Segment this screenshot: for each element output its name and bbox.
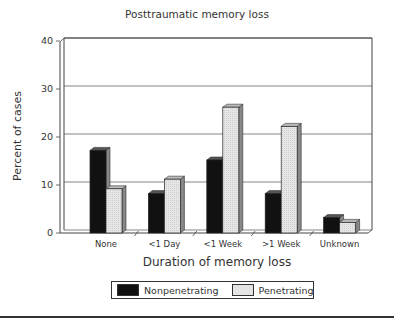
legend-item-nonpenetrating: Nonpenetrating bbox=[112, 284, 219, 296]
x-tick-label: <1 Day bbox=[148, 239, 180, 249]
bar-nonpenetrating-1 bbox=[148, 194, 164, 233]
bar-side bbox=[297, 123, 301, 233]
bar-top bbox=[106, 186, 126, 189]
x-tick-label: >1 Week bbox=[262, 239, 301, 249]
bar-penetrating-2 bbox=[223, 107, 239, 233]
bar-side bbox=[239, 104, 243, 233]
bar-nonpenetrating-2 bbox=[207, 160, 223, 233]
bar-side bbox=[180, 176, 184, 233]
legend-swatch-penetrating bbox=[232, 284, 254, 296]
bar-top bbox=[90, 147, 110, 150]
bar-top bbox=[340, 219, 360, 222]
y-tick-label: 20 bbox=[41, 131, 53, 142]
bar-penetrating-0 bbox=[106, 189, 122, 233]
bar-top bbox=[223, 104, 243, 107]
floor-right bbox=[368, 230, 372, 233]
divider bbox=[0, 316, 394, 318]
bar-top bbox=[281, 123, 301, 126]
wall-top-edge bbox=[60, 38, 64, 42]
bar-side bbox=[122, 186, 126, 233]
bar-penetrating-3 bbox=[281, 126, 297, 233]
bar-top bbox=[164, 176, 184, 179]
x-tick-label: Unknown bbox=[320, 239, 359, 249]
x-tick-label: None bbox=[95, 239, 117, 249]
bar-penetrating-4 bbox=[340, 222, 356, 233]
bar-nonpenetrating-0 bbox=[90, 150, 106, 233]
x-axis-label: Duration of memory loss bbox=[0, 255, 394, 269]
y-tick-label: 40 bbox=[41, 35, 53, 46]
legend-label-nonpenetrating: Nonpenetrating bbox=[144, 285, 219, 296]
legend-swatch-nonpenetrating bbox=[117, 284, 139, 296]
bar-nonpenetrating-3 bbox=[265, 194, 281, 233]
bar-top bbox=[324, 215, 344, 218]
y-tick-label: 0 bbox=[47, 227, 53, 238]
y-tick-label: 30 bbox=[41, 83, 53, 94]
legend: Nonpenetrating Penetrating bbox=[111, 281, 314, 299]
legend-item-penetrating: Penetrating bbox=[227, 284, 314, 296]
bar-nonpenetrating-4 bbox=[324, 218, 340, 233]
legend-label-penetrating: Penetrating bbox=[259, 285, 314, 296]
y-tick-label: 10 bbox=[41, 179, 53, 190]
bar-penetrating-1 bbox=[164, 179, 180, 233]
bar-chart-plot: 010203040None<1 Day<1 Week>1 WeekUnknown bbox=[0, 0, 394, 260]
x-tick-label: <1 Week bbox=[204, 239, 243, 249]
